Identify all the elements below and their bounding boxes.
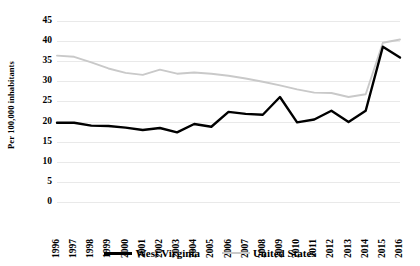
legend-label-united-states: United States (253, 247, 316, 259)
line-chart-figure: Per 100,000 inhabitants 0510152025303540… (0, 0, 420, 266)
x-axis-tick-labels: 1996199719981999200020012002200320042005… (57, 203, 400, 243)
series-container (57, 21, 400, 202)
y-tick-label-35: 35 (26, 56, 52, 66)
y-tick-label-45: 45 (26, 16, 52, 26)
y-axis-title-text: Per 100,000 inhabitants (6, 61, 16, 149)
series-line-west-virginia (57, 47, 400, 133)
y-tick-label-20: 20 (26, 117, 52, 127)
y-tick-label-15: 15 (26, 137, 52, 147)
y-axis-tick-labels: 051015202530354045 (22, 0, 52, 266)
y-tick-label-10: 10 (26, 157, 52, 167)
y-tick-label-30: 30 (26, 77, 52, 87)
legend-item-united-states: United States (222, 247, 316, 259)
y-tick-label-40: 40 (26, 36, 52, 46)
legend-label-west-virginia: West Virginia (135, 247, 199, 259)
y-tick-label-25: 25 (26, 97, 52, 107)
line-swatch-black-icon (104, 252, 132, 255)
chart-legend: West Virginia United States (0, 243, 420, 263)
y-tick-label-0: 0 (26, 197, 52, 207)
y-axis-title: Per 100,000 inhabitants (0, 0, 22, 210)
series-line-united-states (57, 40, 400, 98)
line-swatch-gray-icon (222, 252, 250, 254)
legend-item-west-virginia: West Virginia (104, 247, 199, 259)
plot-area (57, 21, 400, 202)
y-tick-label-5: 5 (26, 177, 52, 187)
